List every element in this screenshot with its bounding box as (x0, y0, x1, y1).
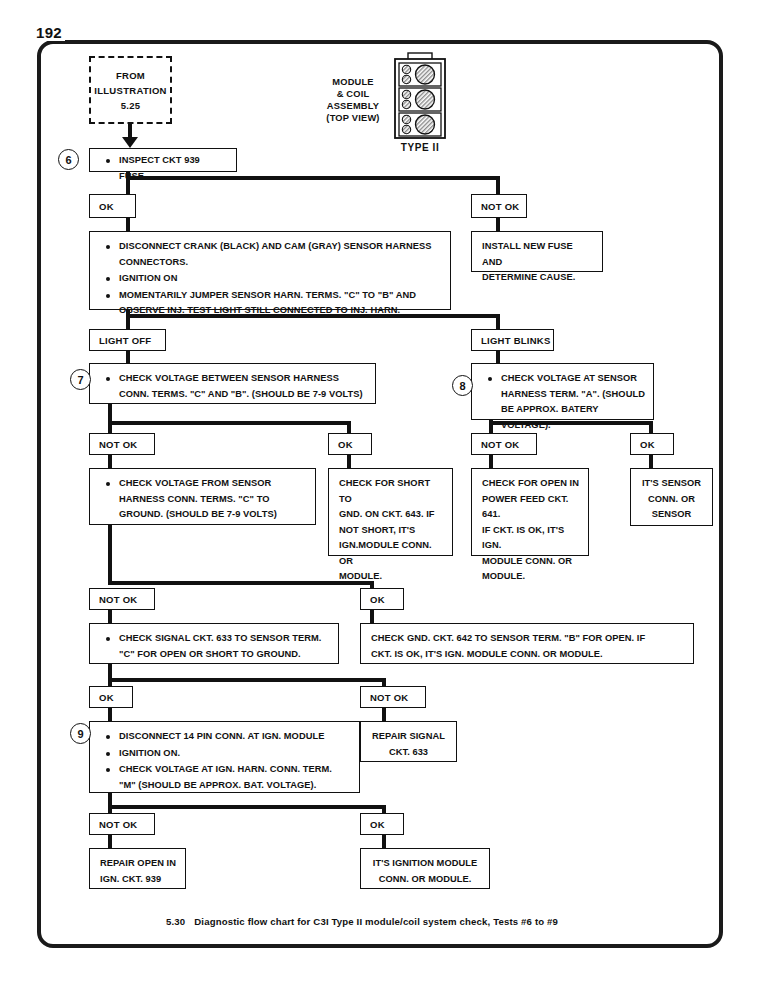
node-check-voltage-a: CHECK VOLTAGE AT SENSOR HARNESS TERM. "A… (471, 363, 654, 420)
check-open-641-line-2: POWER FEED CKT. 641. (482, 492, 580, 523)
figure-caption-number: 5.30 (166, 916, 185, 927)
check-signal-633-item-1: CHECK SIGNAL CKT. 633 TO SENSOR TERM. "C… (104, 631, 330, 662)
flowchart-page: 192 MODULE & COIL ASSEMBLY (TOP VIEW) (0, 0, 760, 986)
branch-label-notok-4: NOT OK (89, 588, 155, 610)
disconnect-14pin-list: DISCONNECT 14 PIN CONN. AT IGN. MODULE I… (104, 729, 351, 793)
connector-notok3-down (489, 455, 493, 469)
step-number-9: 9 (70, 723, 91, 744)
node-disconnect-14pin: DISCONNECT 14 PIN CONN. AT IGN. MODULE I… (89, 721, 360, 793)
node-check-short-643: CHECK FOR SHORT TO GND. ON CKT. 643. IF … (328, 468, 453, 556)
check-voltage-ground-item-1: CHECK VOLTAGE FROM SENSOR HARNESS CONN. … (104, 476, 307, 523)
module-caption-line-3: ASSEMBLY (320, 100, 386, 112)
inspect-fuse-item-1: INSPECT CKT 939 FUSE. (104, 153, 228, 184)
its-sensor-line-1: IT'S SENSOR (639, 476, 704, 492)
connector-step7-down (108, 404, 112, 434)
node-check-open-641: CHECK FOR OPEN IN POWER FEED CKT. 641. I… (471, 468, 589, 556)
branch-label-ok-5-text: OK (99, 692, 114, 703)
node-check-signal-633: CHECK SIGNAL CKT. 633 TO SENSOR TERM. "C… (89, 623, 339, 664)
branch-label-ok-1: OK (89, 194, 136, 218)
its-sensor-line-2: CONN. OR (639, 492, 704, 508)
connector-step7-split (108, 421, 351, 425)
check-open-641-line-4: MODULE CONN. OR (482, 554, 580, 570)
connector-ground-down (108, 525, 112, 585)
check-short-643-line-4: IGN.MODULE CONN. OR (339, 538, 444, 569)
disconnect-sensors-list: DISCONNECT CRANK (BLACK) AND CAM (GRAY) … (104, 239, 442, 319)
step-number-7: 7 (70, 369, 91, 390)
connector-ok4-down (370, 610, 374, 624)
check-open-641-line-5: MODULE. (482, 569, 580, 585)
check-signal-633-list: CHECK SIGNAL CKT. 633 TO SENSOR TERM. "C… (104, 631, 330, 662)
branch-label-notok-5: NOT OK (360, 686, 426, 708)
branch-label-ok-3: OK (630, 433, 674, 455)
node-disconnect-sensors: DISCONNECT CRANK (BLACK) AND CAM (GRAY) … (89, 231, 451, 310)
install-new-fuse-line-2: DETERMINE CAUSE. (482, 270, 594, 286)
connector-ok1-down (126, 218, 130, 232)
branch-label-notok-6: NOT OK (89, 813, 155, 835)
branch-label-ok-6-text: OK (370, 819, 385, 830)
module-caption-line-4: (TOP VIEW) (320, 112, 386, 124)
connector-ok6-down (382, 835, 386, 849)
disconnect-sensors-item-1: DISCONNECT CRANK (BLACK) AND CAM (GRAY) … (104, 239, 442, 270)
repair-signal-633-line-1: REPAIR SIGNAL (369, 729, 448, 745)
connector-notok6-down (108, 835, 112, 849)
connector-633-to-notok (382, 678, 386, 686)
node-install-new-fuse: INSTALL NEW FUSE AND DETERMINE CAUSE. (471, 231, 603, 272)
check-short-643-line-5: MODULE. (339, 569, 444, 585)
branch-label-notok-3: NOT OK (471, 433, 537, 455)
branch-label-notok-2-text: NOT OK (99, 439, 137, 450)
branch-label-ok-4-text: OK (370, 594, 385, 605)
connector-633-down (108, 664, 112, 686)
branch-label-ok-4: OK (360, 588, 404, 610)
branch-label-light-blinks-text: LIGHT BLINKS (481, 335, 551, 346)
node-check-voltage-ground: CHECK VOLTAGE FROM SENSOR HARNESS CONN. … (89, 468, 316, 525)
connector-notok2-down (108, 455, 112, 469)
branch-label-notok-1: NOT OK (471, 194, 527, 218)
branch-label-ok-1-text: OK (99, 201, 114, 212)
branch-label-light-off: LIGHT OFF (89, 329, 166, 351)
branch-label-notok-3-text: NOT OK (481, 439, 519, 450)
branch-label-light-off-text: LIGHT OFF (99, 335, 151, 346)
node-check-voltage-c-b: CHECK VOLTAGE BETWEEN SENSOR HARNESS CON… (89, 363, 376, 404)
connector-step9-split (108, 805, 386, 809)
page-number: 192 (36, 24, 65, 41)
arrow-entry-to-step6-icon (122, 137, 138, 148)
check-short-643-line-2: GND. ON CKT. 643. IF (339, 507, 444, 523)
branch-label-ok-2: OK (328, 433, 372, 455)
node-its-sensor: IT'S SENSOR CONN. OR SENSOR (630, 468, 713, 526)
check-voltage-cb-item-1: CHECK VOLTAGE BETWEEN SENSOR HARNESS CON… (104, 371, 367, 402)
node-repair-open-939: REPAIR OPEN IN IGN. CKT. 939 (89, 848, 186, 889)
node-inspect-fuse: INSPECT CKT 939 FUSE. (89, 148, 237, 172)
entry-note-line-1: FROM (116, 68, 145, 83)
disconnect-14pin-item-2: IGNITION ON. (104, 746, 351, 762)
connector-ground-split (108, 581, 374, 585)
disconnect-14pin-item-3: CHECK VOLTAGE AT IGN. HARN. CONN. TERM. … (104, 762, 351, 793)
install-new-fuse-line-1: INSTALL NEW FUSE AND (482, 239, 594, 270)
branch-label-notok-5-text: NOT OK (370, 692, 408, 703)
repair-open-939-line-1: REPAIR OPEN IN (100, 856, 177, 872)
module-coil-assembly-icon (391, 52, 449, 140)
entry-note-line-3: 5.25 (121, 98, 141, 113)
module-caption-line-1: MODULE (320, 76, 386, 88)
check-voltage-a-item-1: CHECK VOLTAGE AT SENSOR HARNESS TERM. "A… (486, 371, 645, 433)
connector-633-split (108, 678, 386, 682)
check-voltage-a-list: CHECK VOLTAGE AT SENSOR HARNESS TERM. "A… (486, 371, 645, 433)
check-open-641-line-1: CHECK FOR OPEN IN (482, 476, 580, 492)
branch-label-notok-6-text: NOT OK (99, 819, 137, 830)
disconnect-sensors-item-2: IGNITION ON (104, 271, 442, 287)
connector-ok2-down (347, 455, 351, 469)
branch-label-ok-2-text: OK (338, 439, 353, 450)
branch-label-notok-2: NOT OK (89, 433, 155, 455)
branch-label-ok-5: OK (89, 686, 133, 708)
its-ignition-module-line-2: CONN. OR MODULE. (369, 872, 481, 888)
inspect-fuse-list: INSPECT CKT 939 FUSE. (104, 153, 228, 184)
connector-notok4-down (108, 610, 112, 624)
check-short-643-line-1: CHECK FOR SHORT TO (339, 476, 444, 507)
branch-label-notok-1-text: NOT OK (481, 201, 519, 212)
check-gnd-642-line-2: CKT. IS OK, IT'S IGN. MODULE CONN. OR MO… (371, 647, 685, 663)
its-ignition-module-line-1: IT'S IGNITION MODULE (369, 856, 481, 872)
branch-label-ok-6: OK (360, 813, 404, 835)
connector-notok5-down (382, 708, 386, 722)
connector-ok5-down (108, 708, 112, 722)
its-sensor-line-3: SENSOR (639, 507, 704, 523)
entry-from-illustration-note: FROM ILLUSTRATION 5.25 (89, 56, 172, 124)
